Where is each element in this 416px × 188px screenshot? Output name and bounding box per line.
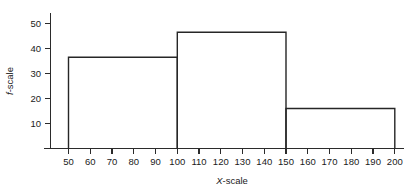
x-tick-label-60: 60 xyxy=(85,156,96,167)
y-axis-tick-labels: 50 40 30 20 10 xyxy=(30,18,41,129)
x-tick-label-80: 80 xyxy=(129,156,140,167)
x-tick-label-170: 170 xyxy=(322,156,338,167)
histogram-bar-150-200 xyxy=(286,109,395,149)
x-tick-label-200: 200 xyxy=(387,156,403,167)
y-axis-title-suffix: -scale xyxy=(4,67,15,92)
x-tick-label-130: 130 xyxy=(235,156,251,167)
x-tick-label-70: 70 xyxy=(107,156,118,167)
histogram-bar-100-150 xyxy=(177,32,286,148)
x-tick-label-190: 190 xyxy=(365,156,381,167)
histogram-bars xyxy=(69,32,395,148)
y-tick-label-20: 20 xyxy=(30,93,41,104)
y-tick-label-50: 50 xyxy=(30,18,41,29)
x-tick-label-180: 180 xyxy=(343,156,359,167)
x-tick-label-120: 120 xyxy=(213,156,229,167)
x-axis-tick-labels: 50 60 70 80 90 100 110 120 130 140 150 1… xyxy=(63,156,403,167)
x-tick-label-160: 160 xyxy=(300,156,316,167)
x-tick-label-110: 110 xyxy=(191,156,206,167)
x-tick-label-100: 100 xyxy=(169,156,185,167)
y-tick-label-10: 10 xyxy=(30,118,41,129)
x-axis: 50 60 70 80 90 100 110 120 130 140 150 1… xyxy=(44,149,404,187)
x-tick-label-50: 50 xyxy=(63,156,74,167)
svg-text:f-scale: f-scale xyxy=(4,67,15,95)
y-axis: 50 40 30 20 10 f-scale xyxy=(4,13,51,149)
histogram-bar-50-100 xyxy=(69,57,178,148)
x-axis-ticks xyxy=(69,149,395,155)
y-tick-label-30: 30 xyxy=(30,68,41,79)
x-tick-label-90: 90 xyxy=(150,156,161,167)
histogram-chart: 50 40 30 20 10 f-scale xyxy=(0,0,416,188)
x-tick-label-140: 140 xyxy=(256,156,272,167)
y-tick-label-40: 40 xyxy=(30,43,41,54)
x-tick-label-150: 150 xyxy=(278,156,294,167)
x-axis-title: X-scale xyxy=(215,175,248,186)
y-axis-ticks xyxy=(45,24,51,124)
x-axis-title-suffix: -scale xyxy=(223,175,248,186)
y-axis-title: f-scale xyxy=(4,67,15,95)
chart-canvas: 50 40 30 20 10 f-scale xyxy=(0,0,416,188)
